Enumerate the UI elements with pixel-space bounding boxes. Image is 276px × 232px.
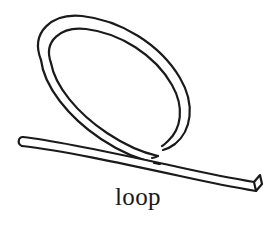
figure-root: loop — [0, 0, 276, 232]
loop-line-drawing — [0, 0, 276, 232]
loop-front-segment — [154, 163, 160, 164]
